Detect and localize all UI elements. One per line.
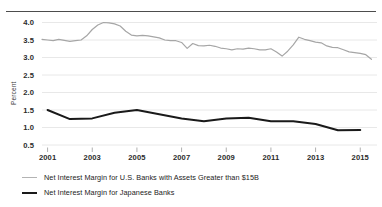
legend-label: Net Interest Margin for Japanese Banks <box>44 189 174 196</box>
y-axis-tick-label: 1.5 <box>8 106 34 115</box>
x-axis-tick-marks <box>48 148 361 153</box>
y-axis-title: Percent <box>10 82 17 105</box>
legend-label: Net Interest Margin for U.S. Banks with … <box>44 174 259 181</box>
legend-swatch-line-icon <box>22 192 37 194</box>
x-axis-tick-label: 2007 <box>162 153 202 162</box>
y-axis-tick-label: 1.0 <box>8 123 34 132</box>
y-axis-tick-label: 0.5 <box>8 141 34 150</box>
y-axis-tick-label: 3.5 <box>8 36 34 45</box>
data-series-group <box>42 23 371 131</box>
x-axis-tick-label: 2011 <box>251 153 291 162</box>
x-axis-tick-label: 2005 <box>117 153 157 162</box>
y-axis-tick-label: 3.0 <box>8 53 34 62</box>
x-axis-tick-label: 2001 <box>28 153 68 162</box>
y-axis-tick-label: 4.0 <box>8 18 34 27</box>
x-axis-tick-label: 2003 <box>72 153 112 162</box>
series-line-us-banks <box>42 23 371 60</box>
chart-legend: Net Interest Margin for U.S. Banks with … <box>22 170 378 200</box>
y-axis-tick-label: 2.5 <box>8 71 34 80</box>
chart-figure: 0.51.01.52.02.53.03.54.0 200120032005200… <box>0 0 382 207</box>
x-axis-tick-label: 2015 <box>340 153 380 162</box>
x-axis-tick-label: 2013 <box>296 153 336 162</box>
legend-item-japanese-banks: Net Interest Margin for Japanese Banks <box>22 185 378 200</box>
legend-swatch-line-icon <box>22 177 37 178</box>
x-axis-tick-label: 2009 <box>206 153 246 162</box>
legend-item-us-banks: Net Interest Margin for U.S. Banks with … <box>22 170 378 185</box>
